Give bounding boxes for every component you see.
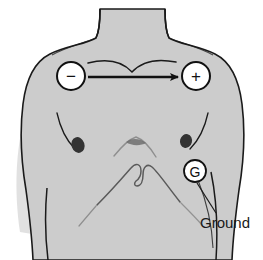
ground-electrode-label: G [190,164,201,180]
negative-electrode-label: − [66,67,76,86]
positive-electrode-marker[interactable]: + [182,62,210,90]
ecg-electrode-placement-diagram: − + G Ground [0,0,263,260]
torso-illustration: − + G Ground [0,0,263,260]
ground-annotation-label: Ground [200,214,250,231]
ground-electrode-marker[interactable]: G [184,160,206,182]
positive-electrode-label: + [191,67,201,86]
negative-electrode-marker[interactable]: − [57,62,85,90]
